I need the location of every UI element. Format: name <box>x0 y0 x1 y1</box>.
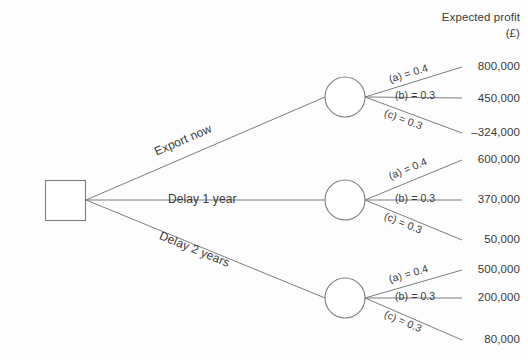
diagram-text-layer: Expected profit (£) Export now Delay 1 y… <box>0 0 528 360</box>
payoff-delay-1-year-b: 370,000 <box>410 193 520 205</box>
payoff-export-now-c: –324,000 <box>410 126 520 138</box>
expected-profit-currency: (£) <box>506 27 520 39</box>
payoff-export-now-b: 450,000 <box>410 92 520 104</box>
payoff-delay-2-years-b: 200,000 <box>410 291 520 303</box>
payoff-delay-1-year-c: 50,000 <box>410 233 520 245</box>
payoff-delay-2-years-c: 80,000 <box>410 333 520 345</box>
branch-label-export-now: Export now <box>152 121 214 158</box>
prob-label-delay-1-year-c: (c) = 0.3 <box>383 209 424 235</box>
prob-label-delay-2-years-c: (c) = 0.3 <box>383 307 424 334</box>
branch-label-delay-1-year: Delay 1 year <box>168 192 237 206</box>
branch-label-delay-2-years: Delay 2 years <box>157 229 231 270</box>
payoff-export-now-a: 800,000 <box>410 60 520 72</box>
payoff-delay-2-years-a: 500,000 <box>410 263 520 275</box>
payoff-delay-1-year-a: 600,000 <box>410 153 520 165</box>
expected-profit-header: Expected profit <box>442 11 520 23</box>
